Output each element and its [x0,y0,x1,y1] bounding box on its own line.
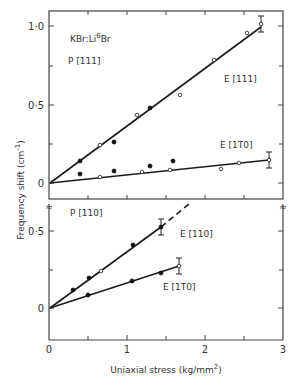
fit-line-e1-10-top [50,160,269,183]
top-ytick-1.0: 1·0 [28,21,44,32]
legend-e1-10-bottom: E [1T0] [163,282,196,292]
fit-line-e110 [50,227,161,308]
x-axis-title: Uniaxial stress (kg/mm2) [110,363,222,375]
legend-e110: E [110] [180,229,213,239]
frequency-shift-chart: 1·0 0·5 0 [0,0,297,379]
xtick-1: 1 [124,344,130,355]
xtick-2: 2 [202,344,208,355]
y-axis-title: Frequency shift (cm-1) [14,140,26,239]
top-ytick-0.5: 0·5 [28,100,44,111]
legend-e1-10-top: E [1T0] [220,140,253,150]
bottom-ytick-0: 0 [38,303,44,314]
top-panel: 1·0 0·5 0 [28,11,283,199]
x-ticks [88,335,244,340]
bottom-stress-label: P [110] [70,208,103,218]
sample-label: KBr:Li6Br [70,32,111,44]
top-stress-label: P [111] [68,56,101,66]
top-y-ticks [49,26,283,183]
xtick-3: 3 [280,344,286,355]
bottom-ytick-0.5: 0·5 [28,226,44,237]
top-ytick-0: 0 [38,178,44,189]
xtick-0: 0 [46,344,52,355]
series-e1-10-top-points [78,158,271,179]
dashed-extrapolation-e110 [161,204,189,227]
bottom-panel: 0·5 0 0 1 2 3 P [28,204,286,355]
legend-e111: E [111] [224,74,257,84]
